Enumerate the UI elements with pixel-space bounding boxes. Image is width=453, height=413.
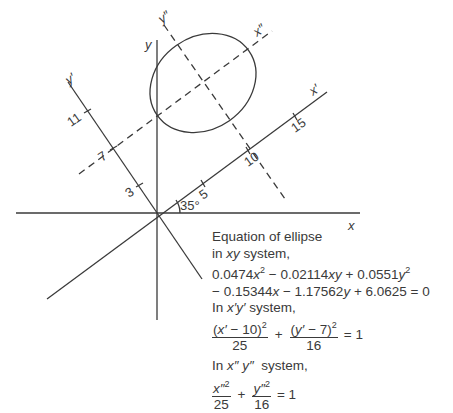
var: x″: [213, 381, 225, 396]
exponent: 2: [332, 320, 337, 330]
equation-block: Equation of ellipse in xy system, 0.0474…: [212, 229, 430, 413]
prime-heading: In x′y′ system,: [212, 300, 430, 317]
x-double-prime-axis: [79, 31, 272, 174]
denominator: 16: [290, 338, 338, 354]
dprime-equation: x″2 25 + y″2 16 = 1: [212, 377, 430, 413]
y-double-prime-axis: [164, 25, 285, 199]
plus: +: [238, 387, 246, 404]
xy-equation-line2: − 0.15344x − 1.17562y + 6.0625 = 0: [212, 284, 430, 301]
var: y′: [295, 322, 304, 337]
coef: − 0.15344: [212, 284, 272, 299]
fraction-1: (x′ − 10)2 25: [212, 318, 268, 354]
tick-label-x-prime-10: 10: [241, 149, 261, 170]
equals: = 1: [344, 327, 363, 344]
text: − 7): [304, 322, 331, 337]
heading-in: in: [212, 246, 226, 261]
var: y″: [253, 381, 265, 396]
tick-label-y-prime-7: 7: [95, 148, 110, 164]
text: In: [212, 358, 227, 373]
exponent: 2: [225, 379, 230, 389]
x-double-prime-label: x″: [249, 21, 268, 40]
tick-label-y-prime-11: 11: [64, 109, 84, 129]
var: x′: [218, 322, 227, 337]
denominator: 16: [252, 397, 271, 413]
y-prime-axis: [68, 82, 202, 279]
angle-label: 35°: [180, 198, 200, 213]
tick-label-y-prime-3: 3: [122, 184, 137, 200]
xy-equation-line1: 0.0474x2 − 0.02114xy + 0.0551y2: [212, 262, 430, 284]
text: system,: [254, 358, 308, 373]
exponent: 2: [265, 379, 270, 389]
denominator: 25: [212, 338, 268, 354]
var: x″ y″: [227, 358, 254, 373]
fraction-3: x″2 25: [212, 377, 231, 413]
dprime-heading: In x″ y″ system,: [212, 358, 430, 375]
fraction-2: (y′ − 7)2 16: [290, 318, 338, 354]
heading-line2: in xy system,: [212, 246, 430, 263]
var: x′y′: [227, 300, 246, 315]
fraction-4: y″2 16: [252, 377, 271, 413]
plus: +: [275, 327, 283, 344]
ellipse: [131, 13, 276, 153]
text: In: [212, 300, 227, 315]
y-prime-label: y′: [61, 70, 78, 88]
denominator: 25: [212, 397, 231, 413]
text: − 10): [227, 322, 262, 337]
coef: 0.0474: [212, 267, 253, 282]
coef: + 6.0625 = 0: [350, 284, 430, 299]
y-double-prime-label: y″: [154, 8, 173, 27]
prime-equation: (x′ − 10)2 25 + (y′ − 7)2 16 = 1: [212, 318, 430, 354]
heading-var: xy: [226, 246, 240, 261]
coef: − 0.02114: [265, 267, 328, 282]
x-prime-label: x′: [305, 81, 322, 99]
coef: − 1.17562: [279, 284, 343, 299]
exponent: 2: [262, 320, 267, 330]
exponent: 2: [405, 265, 410, 275]
y-axis-label: y: [144, 37, 153, 52]
coef: + 0.0551: [342, 267, 399, 282]
heading-line1: Equation of ellipse: [212, 229, 430, 246]
heading-system: system,: [240, 246, 290, 261]
var: xy: [328, 267, 342, 282]
equals: = 1: [277, 387, 296, 404]
text: system,: [246, 300, 296, 315]
